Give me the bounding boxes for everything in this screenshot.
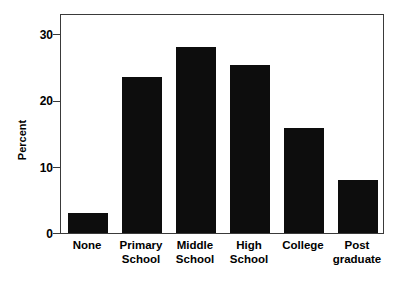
x-axis-tick-label-line1: None bbox=[73, 239, 102, 251]
y-axis-tick-label: 10 bbox=[29, 161, 53, 175]
plot-area bbox=[60, 14, 384, 234]
y-axis-tick-label: 30 bbox=[29, 28, 53, 42]
bar bbox=[68, 213, 108, 233]
bar bbox=[230, 65, 270, 233]
x-axis-tick-label-line2: graduate bbox=[324, 252, 390, 266]
bar bbox=[176, 47, 216, 233]
y-axis-tick-label: 20 bbox=[29, 94, 53, 108]
bar-chart: Percent 0102030 NonePrimarySchoolMiddleS… bbox=[0, 0, 411, 292]
bar bbox=[122, 77, 162, 233]
x-axis-tick-label-line1: High bbox=[236, 239, 262, 251]
x-axis-tick-labels: NonePrimarySchoolMiddleSchoolHighSchoolC… bbox=[60, 238, 384, 288]
x-axis-tick-label: Postgraduate bbox=[324, 238, 390, 266]
y-axis-tick-labels: 0102030 bbox=[26, 0, 53, 292]
x-axis-tick-label-line1: Primary bbox=[120, 239, 163, 251]
bars-layer bbox=[61, 15, 383, 233]
y-axis-tick-label: 0 bbox=[29, 227, 53, 241]
x-axis-tick-label-line1: College bbox=[282, 239, 324, 251]
x-axis-tick-label-line1: Post bbox=[345, 239, 370, 251]
bar bbox=[338, 180, 378, 233]
x-axis-tick-label-line2: School bbox=[216, 252, 282, 266]
bar bbox=[284, 128, 324, 233]
x-axis-tick-label-line1: Middle bbox=[177, 239, 213, 251]
